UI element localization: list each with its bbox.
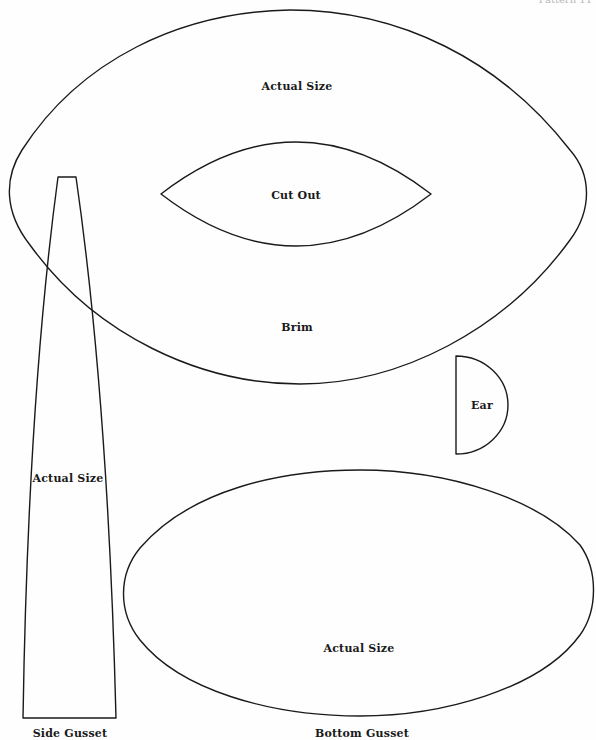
pattern-outlines — [0, 0, 596, 740]
ear-label: Ear — [471, 399, 493, 412]
bottom-gusset-outline — [124, 470, 594, 716]
bottom-gusset-label: Bottom Gusset — [315, 727, 409, 740]
brim-label: Brim — [281, 321, 313, 334]
bottom-gusset-actual-size-label: Actual Size — [323, 642, 394, 655]
brim-actual-size-label: Actual Size — [261, 80, 332, 93]
side-gusset-outline — [23, 177, 116, 718]
side-gusset-actual-size-label: Actual Size — [32, 472, 103, 485]
side-gusset-label: Side Gusset — [33, 727, 108, 740]
cutout-label: Cut Out — [271, 189, 321, 202]
pattern-page: Pattern 11 Actual Size Cut Out Brim Ear … — [0, 0, 596, 740]
